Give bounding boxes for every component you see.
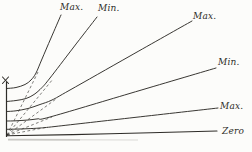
curve-label-zero: Zero [222, 126, 244, 136]
tangent-to-max-upper-left [7, 72, 38, 135]
curve-zero [7, 131, 218, 136]
plot-canvas [0, 0, 252, 152]
curve-max-upper-right [7, 21, 193, 112]
curve-min-upper [7, 17, 98, 102]
curve-label-max-upper-right: Max. [193, 11, 216, 21]
curve-label-min-upper: Min. [98, 3, 120, 13]
curve-label-min-right: Min. [218, 57, 240, 67]
characteristic-curves-figure: Max. Min. Max. Min. Max. Zero [0, 0, 252, 152]
curve-max-upper-left [7, 15, 62, 89]
curve-min-right [7, 68, 217, 121]
curve-label-max-upper-left: Max. [60, 2, 83, 12]
curve-label-max-lower-right: Max. [220, 101, 243, 111]
